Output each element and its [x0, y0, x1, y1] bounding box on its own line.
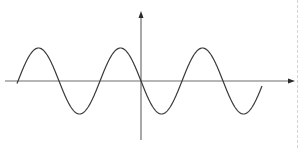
x-axis-arrow-icon: [288, 79, 295, 84]
page-edge-divider: [297, 0, 298, 148]
sine-wave-diagram: [0, 0, 301, 148]
y-axis-arrow-icon: [139, 11, 144, 18]
